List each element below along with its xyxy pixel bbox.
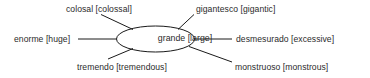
node-label-gigantesco[interactable]: gigantesco [gigantic] <box>196 4 275 14</box>
node-label-enorme[interactable]: enorme [huge] <box>14 34 70 44</box>
node-label-desmesurado[interactable]: desmesurado [excessive] <box>236 34 334 44</box>
node-label-colosal[interactable]: colosal [colossal] <box>66 4 132 14</box>
connector-gigantesco <box>178 15 194 30</box>
node-label-tremendo[interactable]: tremendo [tremendous] <box>77 62 167 72</box>
connector-colosal <box>101 15 133 30</box>
node-label-monstruoso[interactable]: monstruoso [monstrous] <box>235 62 328 72</box>
connector-tremendo <box>108 49 133 60</box>
connector-monstruoso <box>189 47 232 63</box>
semantic-network-diagram: grande [large] colosal [colossal] gigant… <box>0 0 370 78</box>
